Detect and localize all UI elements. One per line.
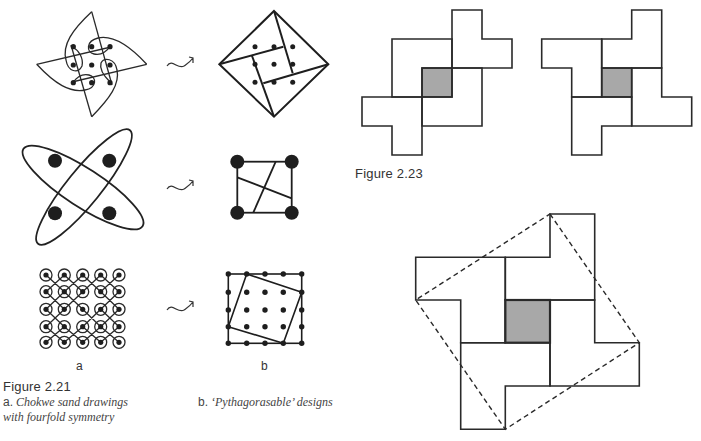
transform-arrow-icon — [167, 301, 193, 311]
pinwheel-large — [416, 214, 640, 429]
figure-canvas — [0, 0, 701, 441]
column-b-label: b — [261, 360, 268, 372]
pythagorasable-grid-dots — [226, 271, 305, 346]
pinwheel-right — [542, 10, 692, 155]
caption-a-line1: a. Chokwe sand drawings — [3, 396, 128, 408]
transform-arrow-icon — [167, 180, 193, 190]
transform-arrow-icon — [167, 57, 193, 67]
caption-a-prefix: a. — [3, 395, 13, 409]
caption-a-text: Chokwe sand drawings — [16, 395, 128, 409]
caption-b: b. ‘Pythagorasable’ designs — [198, 396, 333, 408]
caption-b-text: ‘Pythagorasable’ designs — [211, 395, 333, 409]
column-a-label: a — [76, 360, 83, 372]
pinwheel-left — [362, 10, 512, 155]
figure-2-21-title: Figure 2.21 — [3, 380, 71, 393]
pythagorasable-square — [237, 162, 291, 213]
caption-b-prefix: b. — [198, 395, 208, 409]
caption-a-line2: with fourfold symmetry — [3, 411, 114, 423]
sand-drawing-crossed-ellipses — [13, 120, 153, 255]
figure-2-23-title: Figure 2.23 — [355, 167, 423, 180]
